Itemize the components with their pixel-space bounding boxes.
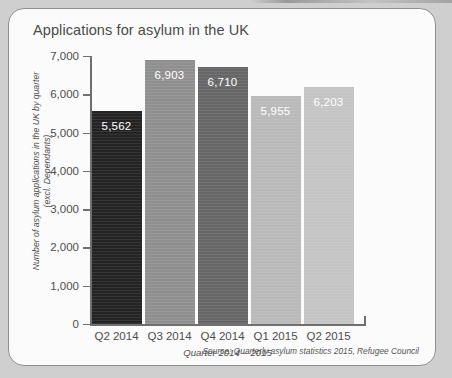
bar-group: 6,903Q3 2014	[143, 56, 196, 324]
x-axis-category-label: Q1 2015	[251, 330, 301, 342]
bar[interactable]: 6,903	[145, 60, 195, 324]
y-tick-mark	[83, 94, 90, 95]
x-axis-line	[90, 324, 365, 326]
bar-group: 5,562Q2 2014	[90, 56, 143, 324]
bar-value-label: 6,903	[145, 69, 195, 81]
bar[interactable]: 5,955	[251, 96, 301, 324]
bar-series: 5,562Q2 20146,903Q3 20146,710Q4 20145,95…	[90, 56, 355, 324]
y-tick-label: 0	[73, 318, 79, 330]
y-tick-mark	[83, 286, 90, 287]
y-tick-label: 4,000	[50, 165, 79, 177]
y-tick-label: 6,000	[50, 88, 79, 100]
bar[interactable]: 6,203	[304, 87, 354, 324]
bar[interactable]: 6,710	[198, 67, 248, 324]
y-tick-mark	[83, 209, 90, 210]
chart-card: Applications for asylum in the UK Number…	[8, 8, 436, 366]
y-tick-mark	[83, 56, 90, 57]
plot-area: 01,0002,0003,0004,0005,0006,0007,000 5,5…	[90, 56, 355, 324]
bar-value-label: 6,203	[304, 96, 354, 108]
y-tick-label: 7,000	[50, 50, 79, 62]
y-axis-title-line1: Number of asylum applications in the UK …	[31, 72, 41, 270]
scan-artifact-line	[250, 0, 452, 3]
x-axis-category-label: Q3 2014	[145, 330, 195, 342]
y-tick-mark	[83, 247, 90, 248]
bar-value-label: 6,710	[198, 76, 248, 88]
y-tick-mark	[83, 171, 90, 172]
y-tick-label: 5,000	[50, 127, 79, 139]
bar-group: 5,955Q1 2015	[249, 56, 302, 324]
x-axis-end-tick	[364, 316, 366, 326]
bar[interactable]: 5,562	[92, 111, 142, 324]
chart-title: Applications for asylum in the UK	[33, 22, 249, 38]
bar-group: 6,203Q2 2015	[302, 56, 355, 324]
x-axis-category-label: Q2 2015	[304, 330, 354, 342]
y-tick-label: 1,000	[50, 280, 79, 292]
y-tick-mark	[83, 133, 90, 134]
source-note: Source: Quarterly asylum statistics 2015…	[203, 346, 419, 356]
y-tick-mark	[83, 324, 90, 325]
bar-group: 6,710Q4 2014	[196, 56, 249, 324]
y-tick-label: 3,000	[50, 203, 79, 215]
bar-value-label: 5,562	[92, 120, 142, 132]
x-axis-category-label: Q4 2014	[198, 330, 248, 342]
x-axis-category-label: Q2 2014	[92, 330, 142, 342]
bar-value-label: 5,955	[251, 105, 301, 117]
y-tick-label: 2,000	[50, 241, 79, 253]
